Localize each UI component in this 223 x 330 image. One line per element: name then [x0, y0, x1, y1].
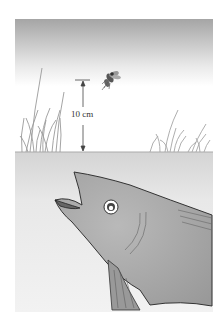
height-label: 10 cm [71, 109, 93, 119]
illustration [0, 0, 223, 330]
sky [15, 19, 213, 153]
diagram-figure: 10 cm [0, 0, 223, 330]
